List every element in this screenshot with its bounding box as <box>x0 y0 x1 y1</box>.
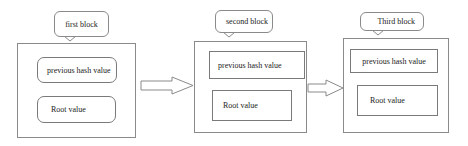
field-label: Root value <box>51 105 86 114</box>
field-label: previous hash value <box>218 61 282 70</box>
field-label: previous hash value <box>362 57 426 66</box>
arrow-icon <box>308 80 343 96</box>
root-value-field: Root value <box>37 96 116 123</box>
field-label: Root value <box>223 101 258 110</box>
block-label: Third block <box>377 17 415 26</box>
block-label: first block <box>65 20 98 29</box>
block-label-callout: first block <box>54 11 109 37</box>
root-value-field: Root value <box>357 85 438 116</box>
block-label-callout: Third block <box>360 12 424 31</box>
field-label: Root value <box>370 96 405 105</box>
field-label: previous hash value <box>47 66 111 75</box>
block-label-callout: second block <box>215 10 273 33</box>
previous-hash-field: previous hash value <box>37 57 117 83</box>
previous-hash-field: previous hash value <box>350 49 438 73</box>
previous-hash-field: previous hash value <box>209 51 305 79</box>
block-label: second block <box>226 17 268 26</box>
arrow-icon <box>141 77 193 94</box>
root-value-field: Root value <box>212 90 292 121</box>
